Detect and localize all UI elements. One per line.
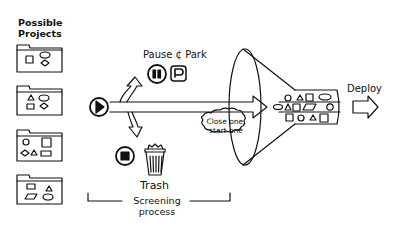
screening-line2: process <box>124 206 190 217</box>
funnel-row-2 <box>274 104 334 111</box>
project-folder-3 <box>17 130 62 161</box>
screening-process-label: Screening process <box>124 195 190 217</box>
funnel-row-3 <box>286 114 328 122</box>
cloud-line2: start one <box>204 126 248 135</box>
funnel <box>229 49 340 165</box>
possible-projects-label: Possible Projects <box>18 17 63 39</box>
project-folder-2 <box>17 86 62 115</box>
pause-park-label: Pause ¢ Park <box>143 50 207 60</box>
project-folder-1 <box>17 45 62 72</box>
pause-icon <box>148 65 166 83</box>
trash-icon <box>145 144 165 175</box>
possible-projects-line1: Possible <box>18 17 63 28</box>
screening-line1: Screening <box>124 195 190 206</box>
pause-arrow <box>120 77 142 102</box>
cloud-line1: Close one, <box>204 117 248 126</box>
park-icon <box>171 66 186 81</box>
funnel-row-1 <box>285 94 331 101</box>
close-one-start-one-label: Close one, start one <box>204 117 248 135</box>
deploy-arrow-icon <box>353 96 378 118</box>
stop-icon <box>116 147 134 165</box>
trash-label: Trash <box>140 180 169 191</box>
play-icon <box>90 98 108 116</box>
possible-projects-line2: Projects <box>18 28 63 39</box>
deploy-label: Deploy <box>347 84 382 94</box>
trash-arrow <box>128 112 142 137</box>
project-folder-4 <box>17 175 62 204</box>
